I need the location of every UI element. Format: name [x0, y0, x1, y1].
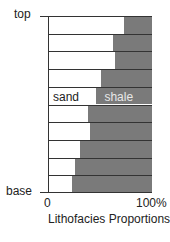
- bar-row: [49, 140, 152, 158]
- bar-row: [49, 16, 152, 34]
- x-tick-100: 100%: [136, 196, 167, 210]
- shale-segment: [75, 159, 152, 176]
- sand-segment: [49, 159, 75, 176]
- shale-segment: shale: [96, 88, 152, 105]
- sand-segment: [49, 17, 124, 34]
- sand-segment: [49, 70, 101, 87]
- x-axis-label: Lithofacies Proportions: [48, 212, 170, 226]
- y-label-top: top: [14, 7, 31, 21]
- top-tick: [40, 16, 48, 17]
- shale-segment: [115, 52, 152, 69]
- sand-segment: [49, 141, 80, 158]
- y-label-base: base: [6, 184, 32, 198]
- sand-label: sand: [53, 90, 79, 104]
- shale-segment: [101, 70, 153, 87]
- bar-row: [49, 69, 152, 87]
- shale-segment: [124, 17, 152, 34]
- bar-row: [49, 175, 152, 193]
- base-tick: [40, 192, 48, 193]
- shale-segment: [72, 176, 152, 193]
- bar-row: [49, 105, 152, 123]
- shale-segment: [113, 35, 152, 52]
- sand-segment: [49, 123, 90, 140]
- bar-row: [49, 158, 152, 176]
- sand-segment: [49, 52, 115, 69]
- stacked-bar-chart: sandshale: [48, 16, 151, 193]
- shale-segment: [90, 123, 152, 140]
- shale-label: shale: [104, 90, 133, 104]
- sand-segment: [49, 106, 88, 123]
- x-axis-line: [49, 192, 152, 193]
- sand-segment: [49, 35, 113, 52]
- shale-segment: [80, 141, 152, 158]
- bar-row: [49, 51, 152, 69]
- bar-row: sandshale: [49, 87, 152, 105]
- sand-segment: [49, 176, 72, 193]
- sand-segment: sand: [49, 88, 96, 105]
- x-tick-0: 0: [44, 196, 51, 210]
- bar-row: [49, 34, 152, 52]
- bar-row: [49, 122, 152, 140]
- shale-segment: [88, 106, 152, 123]
